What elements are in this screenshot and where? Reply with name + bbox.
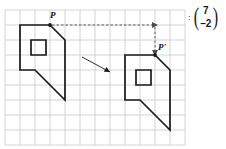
vector-y-component: –2 [200, 17, 211, 30]
translation-vector: : ( 7 –2 ) [188, 2, 220, 32]
vector-separator: : [188, 13, 191, 22]
pre-image-inner-square [31, 40, 46, 55]
translation-diagram: P P' : ( 7 –2 ) [0, 0, 226, 149]
vector-left-paren: ( [193, 4, 198, 30]
image-inner-square [136, 70, 151, 85]
point-p-prime-label: P' [158, 42, 166, 52]
point-p-label: P [50, 10, 56, 20]
image-outline [125, 55, 170, 130]
point-p-marker [48, 23, 52, 27]
pre-image-outline [20, 25, 65, 100]
translation-dashed-path [52, 22, 158, 56]
vector-components: 7 –2 [200, 4, 211, 30]
point-p-prime-marker [153, 53, 157, 57]
grid [5, 10, 185, 145]
vector-right-paren: ) [213, 4, 218, 30]
vector-x-component: 7 [203, 4, 209, 17]
